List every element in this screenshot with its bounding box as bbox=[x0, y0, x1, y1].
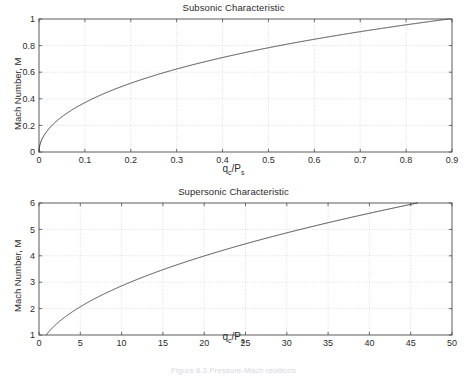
figure-container: Subsonic Characteristic Mach Number, M 0… bbox=[0, 0, 467, 376]
x-label-sub-s: s bbox=[241, 337, 245, 344]
x-label-sub-s: s bbox=[241, 169, 245, 176]
svg-text:4: 4 bbox=[30, 251, 35, 261]
x-label-slash-p: /P bbox=[232, 331, 241, 342]
supersonic-plot-axes: 05101520253035404550123456 bbox=[0, 184, 467, 354]
x-label-sub-c: c bbox=[228, 337, 232, 344]
svg-text:0.4: 0.4 bbox=[22, 94, 35, 104]
svg-text:1: 1 bbox=[30, 14, 35, 24]
svg-text:0: 0 bbox=[30, 147, 35, 157]
svg-text:6: 6 bbox=[30, 198, 35, 208]
svg-text:0.6: 0.6 bbox=[22, 67, 35, 77]
subsonic-plot-axes: 00.10.20.30.40.50.60.70.80.900.20.40.60.… bbox=[0, 0, 467, 186]
supersonic-x-axis-label: qc/Ps bbox=[0, 331, 467, 342]
supersonic-chart-panel: Supersonic Characteristic Mach Number, M… bbox=[0, 184, 467, 354]
figure-caption: Figure 8.3 Pressure-Mach relations bbox=[0, 366, 467, 376]
svg-text:3: 3 bbox=[30, 277, 35, 287]
x-label-sub-c: c bbox=[228, 169, 232, 176]
x-label-slash-p: /P bbox=[232, 163, 241, 174]
svg-text:5: 5 bbox=[30, 225, 35, 235]
svg-text:0.8: 0.8 bbox=[22, 41, 35, 51]
subsonic-x-axis-label: qc/Ps bbox=[0, 163, 467, 174]
svg-text:0.2: 0.2 bbox=[22, 121, 35, 131]
subsonic-chart-panel: Subsonic Characteristic Mach Number, M 0… bbox=[0, 0, 467, 186]
svg-text:2: 2 bbox=[30, 304, 35, 314]
